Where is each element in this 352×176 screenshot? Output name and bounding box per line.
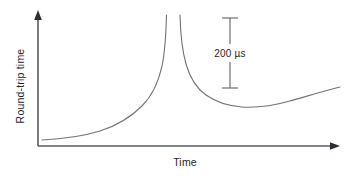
measurement-label: 200 µs <box>214 48 245 59</box>
arrow-right-icon <box>330 142 340 150</box>
curve-segment-drop-and-recover <box>180 15 340 107</box>
figure-container: 200 µs Time Round-trip time <box>0 0 352 176</box>
y-axis-label: Round-trip time <box>14 49 26 124</box>
axes-group <box>34 10 340 150</box>
data-curve-group <box>42 15 340 140</box>
round-trip-time-chart: 200 µs Time Round-trip time <box>0 0 352 176</box>
curve-segment-rise <box>42 15 167 140</box>
arrow-up-icon <box>34 10 42 20</box>
axis-labels-group: Time Round-trip time <box>14 49 197 168</box>
x-axis-label: Time <box>173 156 197 168</box>
measurement-annotation-group: 200 µs <box>214 18 245 88</box>
